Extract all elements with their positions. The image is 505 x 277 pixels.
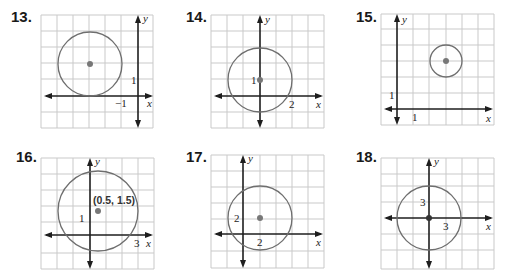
y-axis-label: y <box>433 155 439 167</box>
center-dot <box>426 215 432 221</box>
y-tick-label: 3 <box>420 196 426 208</box>
x-axis-label: x <box>485 220 491 232</box>
x-tick-label: 3 <box>443 220 449 232</box>
coordinate-graph: 3 3 x y <box>0 0 505 277</box>
